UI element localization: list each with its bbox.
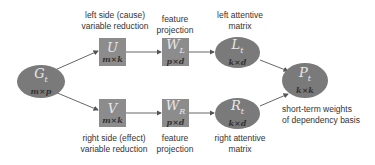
label-line: short-term weights xyxy=(282,104,360,115)
label-line: right attentive xyxy=(208,133,272,144)
node-symbol: WL xyxy=(166,38,185,57)
node-symbol: Rt xyxy=(231,99,244,118)
node-dim: p×d xyxy=(167,56,185,66)
node-symbol: Gt xyxy=(34,67,48,86)
node-dim: m×k xyxy=(102,115,123,125)
label-line: matrix xyxy=(208,144,272,155)
node-dim: p×d xyxy=(167,117,185,127)
node-L: Lt k×d xyxy=(215,37,260,68)
node-G: Gt m×p xyxy=(17,65,65,98)
node-symbol: Pt xyxy=(299,66,311,85)
node-dim: k×d xyxy=(229,118,247,128)
label-line: variable reduction xyxy=(72,144,156,155)
label-left-matrix: left attentive matrix xyxy=(210,10,270,32)
node-dim: k×k xyxy=(296,85,314,95)
label-line: projection xyxy=(150,144,200,155)
node-symbol: V xyxy=(108,102,117,115)
node-dim: m×p xyxy=(31,86,52,96)
node-R: Rt k×d xyxy=(215,98,260,129)
node-symbol: Lt xyxy=(232,38,244,57)
node-symbol: U xyxy=(107,41,118,54)
node-dim: k×d xyxy=(229,57,247,67)
node-P: Pt k×k xyxy=(282,63,328,98)
label-feature-bottom: feature projection xyxy=(150,133,200,155)
node-dim: m×k xyxy=(102,54,123,64)
label-right-matrix: right attentive matrix xyxy=(208,133,272,155)
label-line: projection xyxy=(150,25,200,36)
node-V: V m×k xyxy=(99,99,126,127)
node-WL: WL p×d xyxy=(162,38,189,66)
label-line: feature xyxy=(150,133,200,144)
label-line: matrix xyxy=(210,21,270,32)
label-line: of dependency basis xyxy=(282,115,360,126)
node-symbol: WR xyxy=(166,99,185,118)
label-right-reduction: right side (effect) variable reduction xyxy=(72,133,156,155)
label-left-reduction: left side (cause) variable reduction xyxy=(75,10,155,32)
label-line: variable reduction xyxy=(75,21,155,32)
node-U: U m×k xyxy=(99,38,126,66)
node-WR: WR p×d xyxy=(162,99,189,127)
label-feature-top: feature projection xyxy=(150,14,200,36)
label-line: left attentive xyxy=(210,10,270,21)
label-line: feature xyxy=(150,14,200,25)
label-weights: short-term weights of dependency basis xyxy=(282,104,360,126)
label-line: left side (cause) xyxy=(75,10,155,21)
label-line: right side (effect) xyxy=(72,133,156,144)
